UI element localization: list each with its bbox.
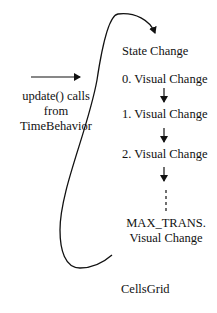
step-max-trans-line1: MAX_TRANS. <box>116 216 216 231</box>
step-max-trans: MAX_TRANS. Visual Change <box>116 216 216 246</box>
step-visual-change-1: 1. Visual Change <box>122 107 207 122</box>
input-label-line2: from <box>6 104 106 119</box>
input-label: update() calls from TimeBehavior <box>6 89 106 134</box>
step-max-trans-line2: Visual Change <box>116 231 216 246</box>
step-visual-change-2: 2. Visual Change <box>122 147 207 162</box>
step-visual-change-0: 0. Visual Change <box>122 72 207 87</box>
input-label-line3: TimeBehavior <box>6 119 106 134</box>
container-label-cellsgrid: CellsGrid <box>121 282 170 297</box>
step-state-change: State Change <box>122 44 188 59</box>
input-label-line1: update() calls <box>6 89 106 104</box>
